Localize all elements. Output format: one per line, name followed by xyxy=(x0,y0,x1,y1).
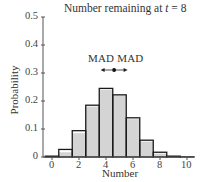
x-tick-label: 10 xyxy=(181,159,192,170)
bar-fill xyxy=(126,119,140,157)
mad-annotation: MAD MAD xyxy=(88,52,144,64)
histogram-chart xyxy=(0,0,207,182)
y-tick-label: 0 xyxy=(33,150,38,161)
y-axis-label: Probability xyxy=(8,60,20,120)
x-tick-label: 0 xyxy=(49,159,54,170)
bar-fill xyxy=(99,90,113,157)
bar-fill xyxy=(86,107,100,157)
y-tick-label: 0.5 xyxy=(25,10,38,21)
mad-arrows xyxy=(101,68,128,72)
filled-bars xyxy=(45,90,194,157)
x-tick-label: 2 xyxy=(76,159,81,170)
x-tick-label: 8 xyxy=(157,159,162,170)
bar-fill xyxy=(140,142,154,157)
x-tick-label: 6 xyxy=(130,159,135,170)
bar-fill xyxy=(59,152,73,157)
y-tick-label: 0.4 xyxy=(25,38,38,49)
y-tick-label: 0.2 xyxy=(25,94,38,105)
y-tick-label: 0.3 xyxy=(25,66,38,77)
bar-fill xyxy=(72,133,86,157)
y-tick-label: 0.1 xyxy=(25,122,38,133)
bar-fill xyxy=(113,95,127,157)
chart-title: Number remaining at t = 8 xyxy=(64,2,186,14)
x-tick-label: 4 xyxy=(103,159,108,170)
